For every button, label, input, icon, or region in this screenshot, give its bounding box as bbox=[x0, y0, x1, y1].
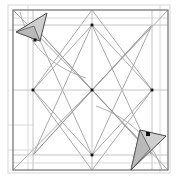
node-top-mid bbox=[91, 24, 94, 27]
node-right-mid bbox=[151, 89, 154, 92]
node-bottom-mid bbox=[91, 154, 94, 157]
screenshot-canvas: Symmetric square wireframe lattice with … bbox=[0, 0, 180, 181]
node-center bbox=[91, 89, 94, 92]
node-left-mid bbox=[32, 89, 35, 92]
cursor-marker-top-left-anchor-point-icon[interactable] bbox=[34, 39, 37, 42]
wireframe-figure bbox=[0, 0, 180, 181]
cursor-marker-bottom-right-anchor-point-icon[interactable] bbox=[146, 132, 150, 136]
